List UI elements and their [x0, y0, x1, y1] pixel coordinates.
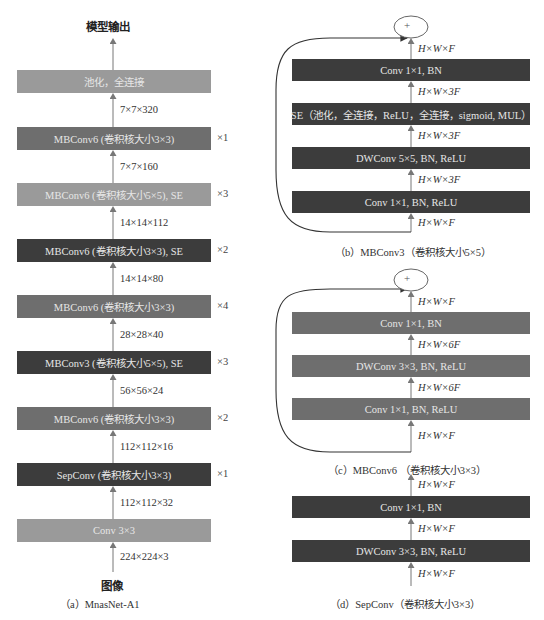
block-b: Conv 1×1, BN, ReLU — [292, 191, 530, 213]
tensor-shape-label: 112×112×32 — [120, 497, 173, 508]
image-input-label: 图像 — [101, 577, 123, 593]
block-b: SE（池化，全连接，ReLU，全连接，sigmoid, MUL） — [292, 103, 530, 125]
tensor-shape-label: H×W×F — [418, 523, 455, 534]
block-a: MBConv6 (卷积核大小3×3) — [17, 295, 211, 318]
tensor-shape-label: H×W×F — [418, 568, 455, 579]
block-a: MBConv3 (卷积核大小5×5), SE — [17, 351, 211, 374]
add-node-b — [394, 16, 428, 38]
tensor-shape-label: H×W×3F — [418, 86, 460, 97]
tensor-shape-label: H×W×F — [418, 217, 455, 228]
add-symbol-b: + — [404, 19, 410, 31]
repeat-count: ×3 — [217, 188, 228, 199]
tensor-shape-label: H×W×6F — [418, 382, 460, 393]
block-a: MBConv6 (卷积核大小5×5), SE — [17, 183, 211, 206]
caption-a: （a）MnasNet-A1 — [60, 596, 139, 611]
model-output-label: 模型输出 — [86, 18, 130, 34]
block-a: 池化，全连接 — [17, 70, 211, 93]
block-a: MBConv6 (卷积核大小3×3) — [17, 407, 211, 430]
tensor-shape-label: 7×7×160 — [120, 161, 158, 172]
block-c: Conv 1×1, BN — [292, 312, 530, 334]
tensor-shape-label: H×W×F — [418, 479, 455, 490]
add-symbol-c: + — [404, 272, 410, 284]
add-node-c — [394, 269, 428, 291]
block-d: DWConv 3×3, BN, ReLU — [292, 540, 530, 562]
repeat-count: ×2 — [217, 244, 228, 255]
tensor-shape-label: H×W×6F — [418, 339, 460, 350]
tensor-shape-label: 28×28×40 — [120, 329, 163, 340]
block-d: Conv 1×1, BN — [292, 496, 530, 518]
tensor-shape-label: 56×56×24 — [120, 385, 163, 396]
tensor-shape-label: H×W×3F — [418, 174, 460, 185]
block-b: DWConv 5×5, BN, ReLU — [292, 147, 530, 169]
tensor-shape-label: H×W×F — [418, 296, 455, 307]
repeat-count: ×3 — [217, 356, 228, 367]
block-a: Conv 3×3 — [17, 519, 211, 542]
block-c: DWConv 3×3, BN, ReLU — [292, 355, 530, 377]
block-c: Conv 1×1, BN, ReLU — [292, 398, 530, 420]
tensor-shape-label: H×W×F — [418, 43, 455, 54]
repeat-count: ×1 — [217, 468, 228, 479]
tensor-shape-label: H×W×3F — [418, 130, 460, 141]
tensor-shape-label: 14×14×112 — [120, 217, 168, 228]
block-a: MBConv6 (卷积核大小3×3), SE — [17, 239, 211, 262]
tensor-shape-label: 112×112×16 — [120, 441, 173, 452]
block-a: SepConv (卷积核大小3×3) — [17, 463, 211, 486]
caption-d: （d）SepConv（卷积核大小3×3） — [330, 596, 480, 611]
block-b: Conv 1×1, BN — [292, 59, 530, 81]
caption-c: （c）MBConv6 （卷积核大小3×3） — [328, 462, 486, 477]
block-a: MBConv6 (卷积核大小3×3) — [17, 127, 211, 150]
tensor-shape-label: 7×7×320 — [120, 104, 158, 115]
repeat-count: ×2 — [217, 412, 228, 423]
repeat-count: ×1 — [217, 132, 228, 143]
tensor-shape-label: H×W×F — [418, 430, 455, 441]
repeat-count: ×4 — [217, 300, 228, 311]
tensor-shape-label: 14×14×80 — [120, 273, 163, 284]
tensor-shape-label: 224×224×3 — [120, 551, 169, 562]
caption-b: （b）MBConv3（卷积核大小5×5） — [335, 244, 491, 259]
